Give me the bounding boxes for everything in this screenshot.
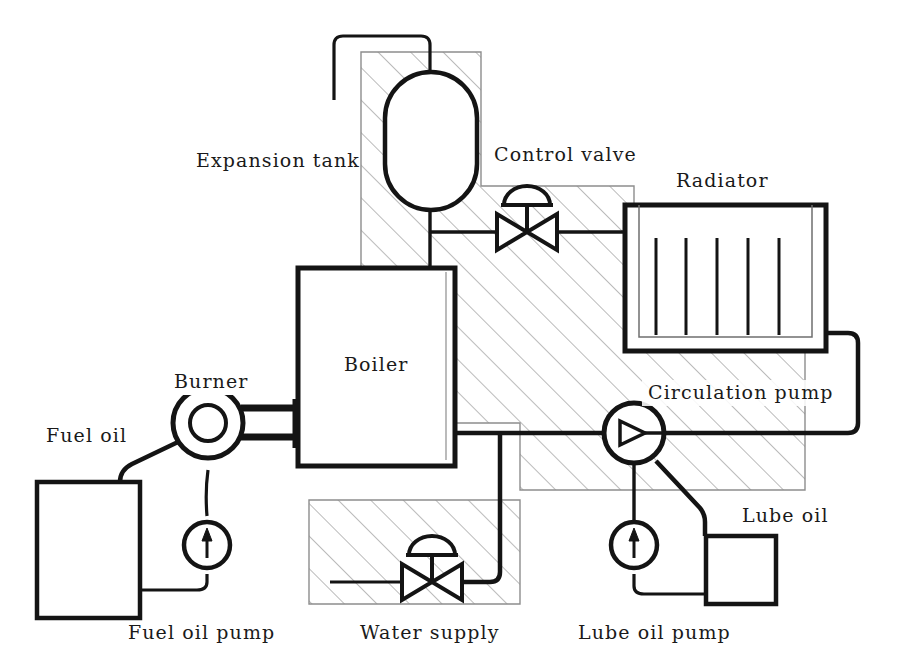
burner: [173, 388, 243, 458]
pipe-lube-pump-to-tank: [634, 574, 706, 594]
radiator-label: Radiator: [676, 169, 769, 191]
schematic-canvas: Expansion tank Control valve Radiator Bo…: [0, 0, 918, 667]
label-boiler: Boiler: [344, 353, 408, 375]
fuel-oil-tank: [37, 482, 140, 618]
burner-inner-circle: [190, 405, 226, 441]
lube-oil-pump-label: Lube oil pump: [578, 621, 731, 643]
label-water-supply: Water supply: [360, 621, 500, 643]
radiator: [625, 205, 826, 351]
pipe-fueloil-tank-to-burner: [120, 442, 178, 482]
expansion-tank: [385, 72, 477, 210]
label-circulation-pump: Circulation pump: [642, 380, 844, 406]
circulation-pump: [604, 403, 664, 463]
fuel-oil-pump: [184, 522, 230, 568]
fuel-oil-tank-body: [37, 482, 140, 618]
lube-oil-tank-body: [706, 536, 776, 604]
label-fuel-oil: Fuel oil: [46, 424, 127, 446]
control-valve-label: Control valve: [494, 143, 637, 165]
pipe-burner-to-fueloil-pump: [206, 470, 208, 516]
circulation-pump-label: Circulation pump: [648, 381, 834, 403]
label-radiator: Radiator: [670, 168, 772, 194]
lube-oil-tank: [706, 536, 776, 604]
boiler-label: Boiler: [344, 353, 408, 375]
label-burner: Burner: [168, 369, 252, 395]
lube-oil-label: Lube oil: [742, 504, 829, 526]
label-fuel-oil-pump: Fuel oil pump: [128, 621, 275, 643]
expansion-tank-label: Expansion tank: [196, 149, 360, 171]
fuel-oil-pump-label: Fuel oil pump: [128, 621, 275, 643]
label-lube-oil: Lube oil: [736, 503, 840, 529]
fuel-oil-label: Fuel oil: [46, 424, 127, 446]
label-expansion-tank: Expansion tank: [190, 148, 360, 174]
label-control-valve: Control valve: [488, 142, 638, 168]
lube-oil-pump: [611, 522, 657, 568]
water-supply-label: Water supply: [360, 621, 500, 643]
burner-label: Burner: [174, 370, 248, 392]
schematic-diagram: Expansion tank Control valve Radiator Bo…: [0, 0, 918, 667]
label-lube-oil-pump: Lube oil pump: [578, 621, 731, 643]
expansion-tank-body: [385, 72, 477, 210]
